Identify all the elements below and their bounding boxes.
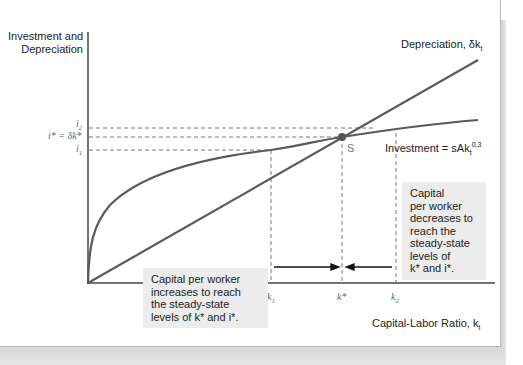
tick-i1: i1	[76, 143, 82, 157]
tick-istar: i* = δk*	[48, 130, 82, 141]
investment-label: Investment = sAkt0.3	[385, 138, 481, 159]
adjustment-arrows	[274, 264, 392, 270]
figure-card: Investment and Depreciation i2 i* = δk* …	[0, 0, 501, 347]
x-axis-label: Capital-Labor Ratio, kt	[372, 317, 480, 334]
steady-state-label: S	[347, 142, 354, 155]
page-shadow-bottom	[0, 347, 505, 365]
tick-k1: k1	[267, 291, 275, 305]
tick-k2: k2	[391, 291, 399, 305]
tick-kstar: k*	[337, 291, 346, 302]
y-axis-label: Investment and Depreciation	[8, 30, 83, 56]
note-increase: Capital per worker increases to reach th…	[143, 268, 268, 328]
note-decrease: Capital per worker decreases to reach th…	[402, 182, 486, 280]
depreciation-label: Depreciation, δkt	[401, 38, 482, 55]
steady-state-point	[338, 133, 346, 141]
